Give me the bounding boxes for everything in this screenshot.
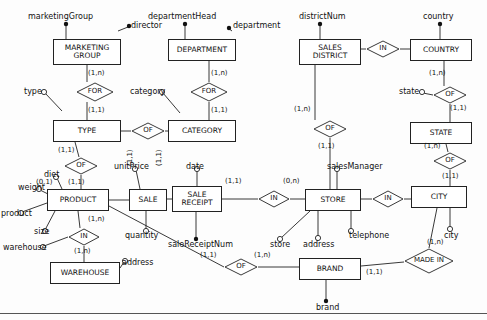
- entity-label: PRODUCT: [60, 196, 97, 205]
- cardinality: (1,1): [155, 149, 163, 166]
- entity-label: SALE: [139, 196, 158, 205]
- attribute-marketinggroup: marketingGroup: [28, 12, 93, 21]
- relationship-store-in-city[interactable]: IN: [372, 190, 404, 208]
- relationship-state-of-city[interactable]: OF: [433, 152, 467, 170]
- entity-brand[interactable]: BRAND: [299, 258, 361, 280]
- attribute-telephone: telephone: [349, 231, 389, 240]
- relationship-label: OF: [445, 91, 455, 99]
- entity-marketing-group[interactable]: MARKETING GROUP: [53, 39, 121, 65]
- cardinality: (1,n): [424, 142, 441, 150]
- cardinality: (1,1): [68, 178, 85, 186]
- attribute-address-warehouse: address: [122, 258, 153, 267]
- relationship-for-category[interactable]: FOR: [190, 82, 228, 102]
- entity-city[interactable]: CITY: [411, 186, 467, 208]
- relationship-label: OF: [325, 125, 335, 133]
- relationship-label: IN: [384, 195, 391, 203]
- attribute-districtnum: districtNum: [299, 12, 346, 21]
- cardinality: (1,n): [427, 238, 444, 246]
- entity-product[interactable]: PRODUCT: [47, 189, 109, 211]
- er-diagram-canvas: MARKETING GROUP DEPARTMENT SALES DISTRIC…: [0, 0, 487, 320]
- attribute-brand: brand: [316, 303, 339, 312]
- entity-label: SALE RECEIPT: [173, 191, 221, 208]
- attribute-salesmanager: salesManager: [327, 162, 382, 171]
- entity-label: STATE: [430, 129, 453, 138]
- relationship-label: IN: [80, 233, 87, 241]
- attribute-salereceiptnum: saleReceiptNum: [168, 240, 233, 249]
- entity-label: CITY: [431, 193, 448, 202]
- entity-label: STORE: [320, 196, 345, 205]
- entity-state[interactable]: STATE: [410, 122, 472, 144]
- relationship-district-of-store[interactable]: OF: [313, 120, 347, 138]
- attribute-warehouse: warehouse: [3, 243, 47, 252]
- attribute-state: state: [399, 87, 419, 96]
- entity-warehouse[interactable]: WAREHOUSE: [50, 262, 120, 284]
- relationship-label: FOR: [202, 88, 216, 96]
- relationship-receipt-in-store[interactable]: IN: [258, 190, 290, 208]
- entity-sale[interactable]: SALE: [129, 189, 167, 211]
- relationship-for-type[interactable]: FOR: [76, 82, 114, 102]
- entity-sale-receipt[interactable]: SALE RECEIPT: [172, 186, 222, 212]
- entity-label: TYPE: [78, 127, 96, 136]
- entity-country[interactable]: COUNTRY: [410, 39, 472, 61]
- relationship-label: MADE IN: [414, 257, 444, 265]
- relationship-label: OF: [445, 157, 455, 165]
- entity-label: WAREHOUSE: [61, 269, 110, 278]
- relationship-made-in[interactable]: MADE IN: [404, 248, 454, 274]
- relationship-label: FOR: [88, 88, 102, 96]
- relationship-label: IN: [379, 45, 386, 53]
- page-divider: [0, 313, 487, 314]
- relationship-type-of-category[interactable]: OF: [131, 122, 165, 140]
- entity-label: MARKETING GROUP: [54, 44, 120, 61]
- cardinality: (1,1): [88, 106, 105, 114]
- relationship-country-of-state[interactable]: OF: [433, 86, 467, 104]
- cardinality: (1,1): [442, 172, 459, 180]
- attribute-product: product: [1, 209, 32, 218]
- entity-label: BRAND: [317, 265, 344, 274]
- attribute-quantity: quantity: [125, 231, 158, 240]
- attribute-departmenthead: departmentHead: [148, 12, 216, 21]
- attribute-date: date: [186, 162, 204, 171]
- entity-sales-district[interactable]: SALES DISTRICT: [299, 39, 361, 65]
- entity-store[interactable]: STORE: [305, 189, 361, 211]
- entity-label: CATEGORY: [182, 127, 222, 136]
- entity-label: SALES DISTRICT: [300, 44, 360, 61]
- cardinality: (1,n): [254, 251, 271, 259]
- attribute-department: department: [233, 21, 280, 30]
- attribute-category: category: [130, 87, 165, 96]
- cardinality: (1,1): [211, 106, 228, 114]
- cardinality: (1,1): [318, 142, 335, 150]
- relationship-label: OF: [76, 162, 86, 170]
- entity-label: DEPARTMENT: [177, 46, 227, 55]
- cardinality: (1,n): [88, 215, 105, 223]
- entity-type[interactable]: TYPE: [53, 120, 121, 142]
- cardinality: (1,1): [58, 146, 75, 154]
- attribute-store: store: [270, 240, 290, 249]
- cardinality: (1,n): [74, 247, 91, 255]
- cardinality: (1,1): [126, 149, 134, 166]
- relationship-district-in-country[interactable]: IN: [366, 40, 400, 58]
- cardinality: (1,1): [200, 251, 217, 259]
- cardinality: (1,n): [294, 105, 311, 113]
- cardinality: (1,n): [211, 69, 228, 77]
- cardinality: (1,n): [429, 69, 446, 77]
- cardinality: (0,n): [283, 177, 300, 185]
- attribute-address-store: address: [303, 240, 334, 249]
- attribute-director: director: [131, 21, 162, 30]
- relationship-product-of-type[interactable]: OF: [64, 157, 98, 175]
- relationship-label: OF: [143, 127, 153, 135]
- cardinality: (1,1): [366, 268, 383, 276]
- relationship-label: IN: [270, 195, 277, 203]
- entity-department[interactable]: DEPARTMENT: [168, 39, 236, 61]
- entity-category[interactable]: CATEGORY: [168, 120, 236, 142]
- relationship-label: OF: [236, 263, 246, 271]
- cardinality: (1,1): [225, 177, 242, 185]
- attribute-city: city: [444, 231, 459, 240]
- attribute-country: country: [423, 12, 454, 21]
- relationship-product-in-warehouse[interactable]: IN: [68, 228, 100, 246]
- relationship-product-of-brand[interactable]: OF: [224, 258, 258, 276]
- entity-label: COUNTRY: [423, 46, 459, 55]
- cardinality: (1,n): [88, 69, 105, 77]
- cardinality: (0,1): [36, 178, 53, 186]
- attribute-type: type: [24, 87, 42, 96]
- cardinality: (1,1): [450, 104, 467, 112]
